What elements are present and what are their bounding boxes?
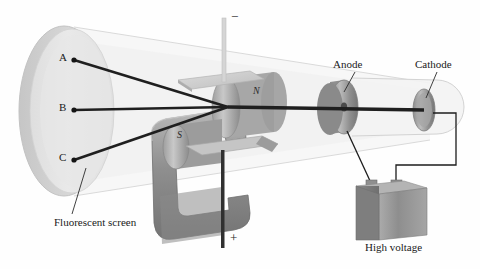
terminal-negative-label: −	[231, 9, 238, 25]
negative-electrode-rod	[222, 18, 226, 82]
pole-label-south: S	[177, 129, 182, 140]
spot-label-c: C	[59, 151, 66, 163]
diagram-canvas	[0, 0, 480, 269]
pole-label-north: N	[253, 85, 260, 96]
cathode-label: Cathode	[415, 58, 452, 70]
beam-spot-c	[71, 157, 76, 162]
cathode-ray-tube-figure: A B C Fluorescent screen Anode Cathode H…	[0, 0, 480, 269]
spot-label-a: A	[59, 51, 67, 63]
beam-spot-b	[71, 107, 76, 112]
anode-label: Anode	[333, 58, 362, 70]
fluorescent-screen-label: Fluorescent screen	[54, 216, 136, 228]
high-voltage-source	[356, 180, 427, 240]
beam-spot-a	[71, 57, 76, 62]
spot-label-b: B	[59, 101, 66, 113]
positive-electrode-rod	[221, 150, 225, 248]
high-voltage-label: High voltage	[365, 241, 422, 253]
terminal-positive-label: +	[230, 230, 237, 246]
